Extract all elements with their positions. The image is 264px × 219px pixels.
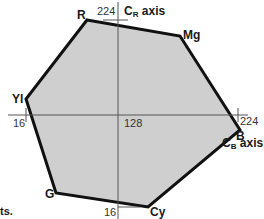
cb-axis-label-main: C (222, 136, 231, 150)
cropped-caption-fragment: ts. (0, 206, 13, 217)
cr-axis-label-main: C (124, 4, 133, 18)
cb-axis-label: CB axis (222, 137, 263, 151)
vertex-label-cy: Cy (150, 206, 165, 218)
cb-min-tick-label: 16 (13, 118, 25, 129)
cb-axis-label-suffix: axis (236, 136, 263, 150)
cb-max-tick-label: 224 (240, 116, 258, 127)
cr-max-tick-label: 224 (97, 6, 115, 17)
cr-axis-label: CR axis (124, 5, 165, 19)
gamut-hexagon (26, 20, 240, 207)
center-tick-label: 128 (124, 118, 142, 129)
vertex-label-mg: Mg (183, 29, 200, 41)
cr-min-tick-label: 16 (104, 207, 116, 218)
vertex-label-yl: Yl (12, 93, 23, 105)
vertex-label-g: G (45, 188, 54, 200)
vertex-label-r: R (77, 9, 86, 21)
gamut-diagram (0, 0, 264, 219)
cr-axis-label-suffix: axis (138, 4, 165, 18)
